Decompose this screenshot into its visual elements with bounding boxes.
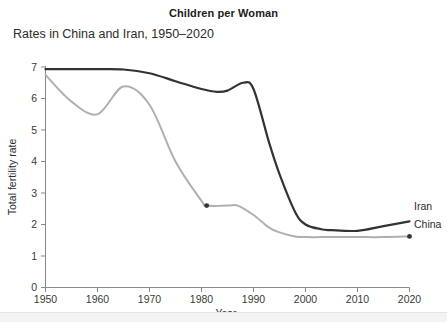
x-tick-label: 2000 (294, 293, 318, 305)
y-tick-label: 6 (31, 92, 37, 104)
y-axis-title: Total fertility rate (6, 139, 18, 216)
x-tick-label: 1990 (242, 293, 266, 305)
y-tick-label: 7 (31, 61, 37, 73)
axis-group (46, 66, 410, 288)
x-tick-label: 1960 (86, 293, 110, 305)
y-tick-label: 1 (31, 250, 37, 262)
x-tick-label: 2010 (346, 293, 370, 305)
series-layer (46, 69, 412, 239)
chart-card: Children per Woman Rates in China and Ir… (0, 0, 447, 312)
series-label-iran: Iran (414, 200, 432, 212)
card-bottom-edge (0, 312, 447, 322)
series-label-china: China (414, 218, 442, 230)
x-tick-group: 1950 1960 1970 1980 1990 2000 2010 2020 (34, 288, 422, 306)
y-tick-group: 0 1 2 3 4 5 6 7 (31, 61, 45, 294)
data-point-marker (407, 234, 412, 239)
fertility-line-chart: 0 1 2 3 4 5 6 7 1950 1960 (0, 0, 447, 312)
data-point-marker (204, 203, 209, 208)
y-tick-label: 0 (31, 281, 37, 293)
x-tick-label: 1980 (190, 293, 214, 305)
chart-page: Children per Woman Rates in China and Ir… (0, 0, 447, 322)
y-tick-label: 3 (31, 187, 37, 199)
x-tick-label: 2020 (398, 293, 422, 305)
y-tick-label: 2 (31, 218, 37, 230)
y-tick-label: 4 (31, 155, 37, 167)
x-tick-label: 1970 (138, 293, 162, 305)
series-line-china (46, 75, 410, 237)
y-tick-label: 5 (31, 124, 37, 136)
series-line-iran (46, 69, 410, 231)
x-tick-label: 1950 (34, 293, 58, 305)
